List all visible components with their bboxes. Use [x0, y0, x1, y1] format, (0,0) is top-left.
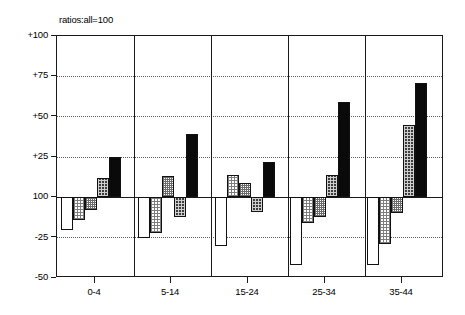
bar-5-14-series-2: [150, 197, 162, 232]
bar-35-44-series-4: [403, 125, 415, 198]
bar-0-4-series-4: [97, 178, 109, 197]
chart-title: ratios:all=100: [59, 14, 113, 25]
bar-35-44-series-1: [367, 197, 379, 265]
bar-35-44-series-3: [391, 197, 403, 213]
gridline: [57, 116, 442, 117]
gridline: [57, 76, 442, 77]
y-tick-mark: [51, 115, 56, 116]
x-tick-mark: [247, 277, 248, 283]
x-category-label-25-34: 25-34: [312, 286, 335, 297]
y-tick-mark: [51, 156, 56, 157]
bar-25-34-series-2: [302, 197, 314, 223]
x-category-label-5-14: 5-14: [161, 286, 179, 297]
bar-25-34-series-1: [290, 197, 302, 265]
x-category-label-0-4: 0-4: [87, 286, 100, 297]
bar-25-34-series-5: [338, 102, 350, 197]
y-tick-mark: [51, 277, 56, 278]
bar-5-14-series-1: [138, 197, 150, 237]
bar-15-24-series-1: [215, 197, 227, 245]
bar-0-4-series-1: [61, 197, 73, 229]
bar-0-4-series-3: [85, 197, 97, 210]
group-separator: [365, 36, 366, 276]
x-tick-mark: [324, 277, 325, 283]
bar-15-24-series-2: [227, 175, 239, 198]
y-tick-label: +50: [10, 110, 48, 121]
x-category-label-15-24: 15-24: [235, 286, 258, 297]
chart-container: ratios:all=100 +100+75+50+25100-25-500-4…: [0, 0, 465, 315]
y-tick-mark: [51, 236, 56, 237]
y-tick-mark: [51, 75, 56, 76]
bar-35-44-series-5: [415, 83, 427, 198]
y-tick-label: +25: [10, 150, 48, 161]
y-tick-mark: [51, 196, 56, 197]
bar-5-14-series-5: [186, 134, 198, 197]
y-tick-label: +100: [10, 29, 48, 40]
bar-15-24-series-3: [239, 183, 251, 198]
bar-15-24-series-5: [263, 162, 275, 197]
x-tick-mark: [170, 277, 171, 283]
bar-0-4-series-5: [109, 157, 121, 197]
x-category-label-35-44: 35-44: [389, 286, 412, 297]
bar-25-34-series-3: [314, 197, 326, 216]
bar-5-14-series-3: [162, 176, 174, 197]
group-separator: [134, 36, 135, 276]
x-tick-mark: [94, 277, 95, 283]
y-tick-label: -50: [10, 271, 48, 282]
bar-0-4-series-2: [73, 197, 85, 220]
y-tick-mark: [51, 35, 56, 36]
y-tick-label: 100: [10, 190, 48, 201]
bar-15-24-series-4: [251, 197, 263, 212]
group-separator: [288, 36, 289, 276]
group-separator: [211, 36, 212, 276]
bar-35-44-series-2: [379, 197, 391, 244]
bar-5-14-series-4: [174, 197, 186, 216]
y-tick-label: +75: [10, 69, 48, 80]
plot-inner: [57, 36, 442, 276]
plot-area: [56, 35, 443, 277]
y-tick-label: -25: [10, 231, 48, 242]
x-tick-mark: [401, 277, 402, 283]
bar-25-34-series-4: [326, 175, 338, 198]
